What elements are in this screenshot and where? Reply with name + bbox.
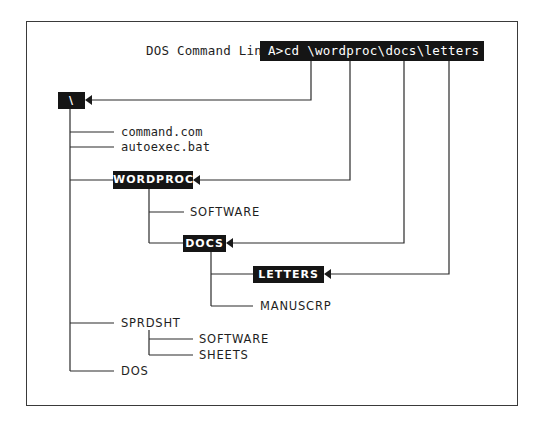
file-command-com: command.com bbox=[121, 125, 203, 139]
command-line-label: DOS Command Line: bbox=[146, 44, 277, 58]
sprdsht-software-directory: SOFTWARE bbox=[199, 332, 269, 346]
tree-connector-lines bbox=[0, 0, 544, 430]
arrow-to-wordproc-icon bbox=[193, 175, 200, 185]
manuscrp-directory: MANUSCRP bbox=[260, 299, 331, 313]
docs-directory-box: DOCS bbox=[183, 235, 226, 252]
root-directory-box: \ bbox=[58, 92, 85, 109]
arrow-to-letters-icon bbox=[324, 269, 331, 279]
sprdsht-directory: SPRDSHT bbox=[121, 316, 181, 330]
wordproc-software-directory: SOFTWARE bbox=[190, 205, 260, 219]
command-line-box: A>cd \wordproc\docs\letters bbox=[260, 41, 484, 61]
sheets-directory: SHEETS bbox=[199, 348, 249, 362]
letters-directory-box: LETTERS bbox=[253, 266, 324, 283]
file-autoexec-bat: autoexec.bat bbox=[121, 140, 210, 154]
wordproc-directory-box: WORDPROC bbox=[113, 171, 193, 189]
arrow-to-docs-icon bbox=[226, 238, 233, 248]
arrow-to-root-icon bbox=[85, 95, 92, 105]
dos-directory: DOS bbox=[121, 364, 149, 378]
